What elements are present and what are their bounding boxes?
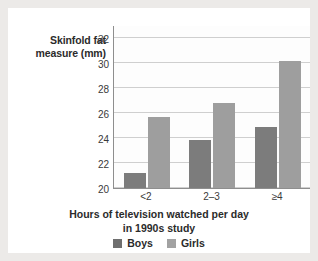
bar-boys-1 [189, 140, 211, 188]
legend-label-girls: Girls [181, 237, 205, 249]
legend-item-boys[interactable]: Boys [113, 237, 153, 249]
x-axis-title: Hours of television watched per day in 1… [8, 207, 310, 235]
y-tick-label-32: 32 [85, 33, 109, 44]
y-axis-tick-labels: 20222426283032 [83, 26, 109, 189]
legend-item-girls[interactable]: Girls [167, 237, 205, 249]
x-tick-label-0: <2 [140, 191, 151, 202]
y-tick-label-22: 22 [85, 158, 109, 169]
bar-girls-2 [279, 61, 301, 188]
y-tick-label-30: 30 [85, 58, 109, 69]
x-axis-tick-labels: <22–3≥4 [113, 191, 310, 207]
y-tick-label-20: 20 [85, 184, 109, 195]
y-tick-label-24: 24 [85, 133, 109, 144]
chart-legend: BoysGirls [8, 237, 310, 249]
y-tick-label-28: 28 [85, 83, 109, 94]
legend-swatch-icon-boys [113, 239, 122, 248]
bar-boys-0 [124, 173, 146, 188]
chart-card: Skinfold fat measure (mm) 20222426283032… [8, 8, 310, 253]
legend-label-boys: Boys [127, 237, 153, 249]
bar-boys-2 [255, 127, 277, 188]
bar-girls-1 [213, 103, 235, 188]
x-tick-label-1: 2–3 [203, 191, 220, 202]
bar-group [180, 26, 246, 188]
bar-group [114, 26, 180, 188]
plot-area [113, 26, 310, 189]
y-tick-label-26: 26 [85, 108, 109, 119]
legend-swatch-icon-girls [167, 239, 176, 248]
bar-girls-0 [148, 117, 170, 188]
x-tick-label-2: ≥4 [272, 191, 283, 202]
x-axis-title-line-2: in 1990s study [8, 221, 310, 235]
bar-group [245, 26, 311, 188]
x-axis-title-line-1: Hours of television watched per day [8, 207, 310, 221]
